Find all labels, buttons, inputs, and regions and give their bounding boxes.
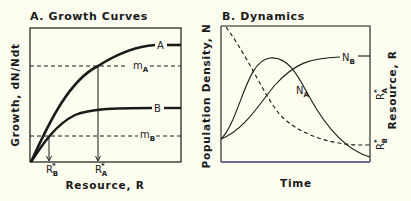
right-r-star-b-label: R*B: [373, 138, 389, 150]
figure: A. Growth Curves Growth, dN/Ndt Resource…: [0, 0, 411, 201]
panel-b: B. Dynamics Population Density, N Time R…: [200, 10, 398, 189]
curve-a-label: A: [157, 40, 164, 51]
panel-b-title: B. Dynamics: [222, 10, 305, 23]
panel-a: A. Growth Curves Growth, dN/Ndt Resource…: [9, 10, 181, 191]
curve-n-b: [221, 57, 340, 139]
panel-b-ylabel: Population Density, N: [200, 24, 212, 169]
m-b-label: mB: [140, 129, 155, 143]
n-b-label: NB: [342, 52, 355, 66]
r-star-a-label: R*A: [95, 162, 108, 178]
panel-a-xlabel: Resource, R: [65, 179, 144, 191]
panel-a-title: A. Growth Curves: [30, 10, 148, 23]
curve-n-a: [221, 58, 370, 157]
panel-a-ylabel: Growth, dN/Ndt: [9, 43, 21, 147]
curve-b-label: B: [154, 103, 161, 114]
panel-b-xlabel: Time: [280, 177, 312, 189]
r-star-b-label: R*B: [46, 162, 58, 178]
n-a-label: NA: [296, 85, 309, 99]
m-a-label: mA: [133, 60, 149, 74]
